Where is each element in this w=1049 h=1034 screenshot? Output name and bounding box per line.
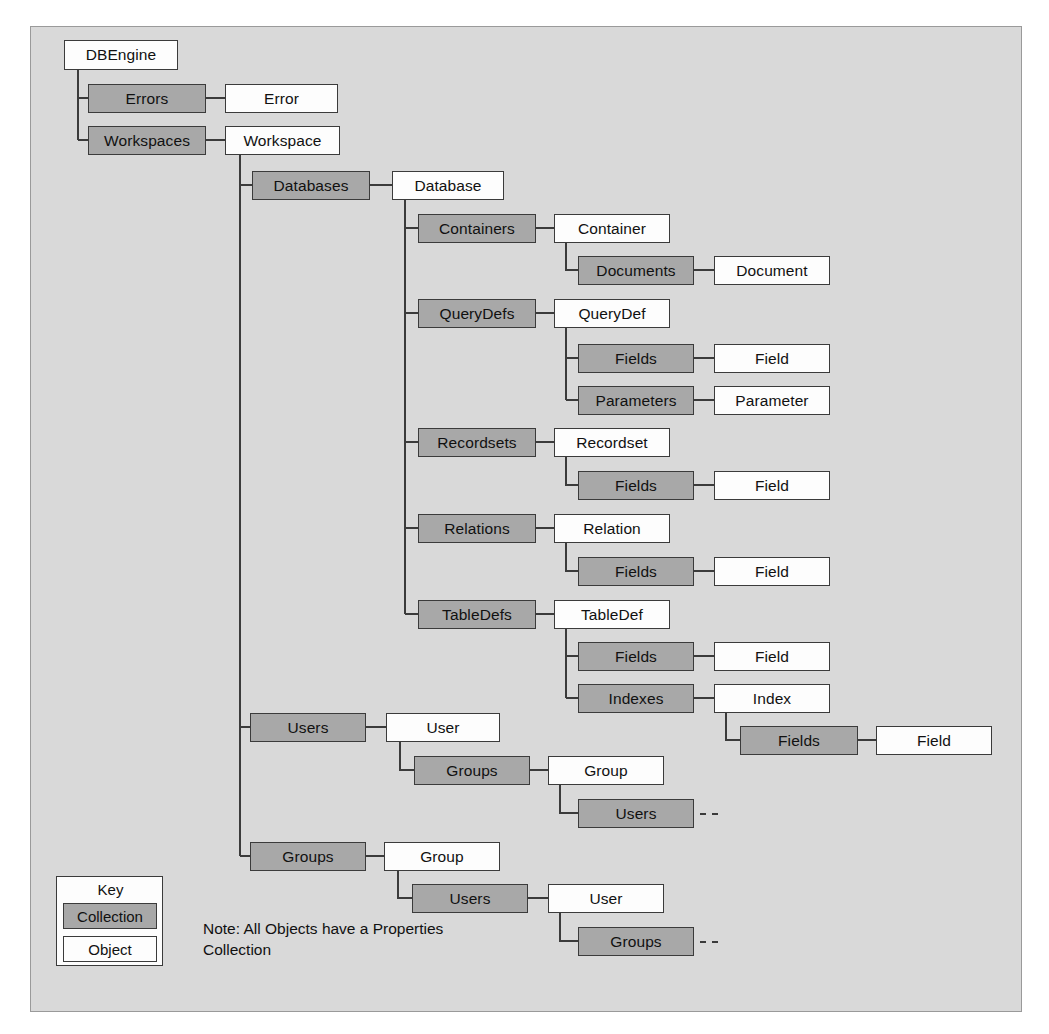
node-container: Container [554, 214, 670, 243]
node-rs-field: Field [714, 471, 830, 500]
node-errors: Errors [88, 84, 206, 113]
node-error: Error [225, 84, 338, 113]
node-td-field: Field [714, 642, 830, 671]
users-continuation-dashes [700, 813, 718, 815]
node-ug-users: Users [578, 799, 694, 828]
node-dbengine: DBEngine [64, 40, 178, 70]
node-ix-field: Field [876, 726, 992, 755]
node-rl-fields: Fields [578, 557, 694, 586]
node-indexes: Indexes [578, 684, 694, 713]
node-databases: Databases [252, 171, 370, 200]
node-gu-groups: Groups [578, 927, 694, 956]
legend-collection-swatch: Collection [63, 903, 157, 929]
node-group: Group [384, 842, 500, 871]
node-groups: Groups [250, 842, 366, 871]
node-td-fields: Fields [578, 642, 694, 671]
groups-continuation-dashes [700, 941, 718, 943]
node-tabledef: TableDef [554, 600, 670, 629]
node-containers: Containers [418, 214, 536, 243]
node-u-groups: Groups [414, 756, 530, 785]
node-relations: Relations [418, 514, 536, 543]
node-database: Database [392, 171, 504, 200]
node-querydefs: QueryDefs [418, 299, 536, 328]
node-recordset: Recordset [554, 428, 670, 457]
legend-title: Key [57, 881, 164, 898]
node-querydef: QueryDef [554, 299, 670, 328]
node-user: User [386, 713, 500, 742]
node-workspaces: Workspaces [88, 126, 206, 155]
diagram-note: Note: All Objects have a Properties Coll… [203, 919, 463, 961]
node-qd-fields: Fields [578, 344, 694, 373]
node-qd-field: Field [714, 344, 830, 373]
node-index: Index [714, 684, 830, 713]
node-ix-fields: Fields [740, 726, 858, 755]
node-relation: Relation [554, 514, 670, 543]
node-rs-fields: Fields [578, 471, 694, 500]
legend-key: Key Collection Object [56, 876, 163, 966]
node-tabledefs: TableDefs [418, 600, 536, 629]
node-parameters: Parameters [578, 386, 694, 415]
node-documents: Documents [578, 256, 694, 285]
node-document: Document [714, 256, 830, 285]
node-users: Users [250, 713, 366, 742]
node-u-group: Group [548, 756, 664, 785]
node-g-users: Users [412, 884, 528, 913]
node-workspace: Workspace [225, 126, 340, 155]
node-parameter: Parameter [714, 386, 830, 415]
node-rl-field: Field [714, 557, 830, 586]
legend-object-swatch: Object [63, 936, 157, 962]
node-g-user: User [548, 884, 664, 913]
node-recordsets: Recordsets [418, 428, 536, 457]
